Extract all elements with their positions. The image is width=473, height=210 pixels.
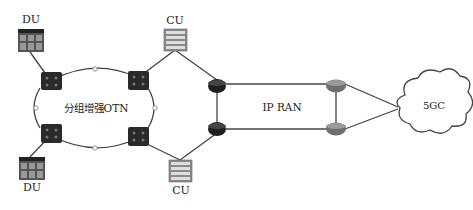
core-label: 5GC <box>423 100 445 111</box>
cu-server-bottom[interactable] <box>169 160 192 182</box>
router-agg-bottom[interactable] <box>326 123 346 136</box>
cu-bottom-label: CU <box>172 184 190 197</box>
du-top-label: DU <box>22 13 40 26</box>
du-server-bottom[interactable] <box>19 157 45 180</box>
ipran-label: IP RAN <box>262 101 301 113</box>
du-server-top[interactable] <box>18 29 44 52</box>
otn-node-top-left[interactable] <box>41 72 62 90</box>
router-agg-top[interactable] <box>326 80 346 93</box>
otn-node-bottom-left[interactable] <box>41 124 62 143</box>
router-access-bottom[interactable] <box>208 122 226 136</box>
router-access-top[interactable] <box>208 79 226 93</box>
cu-server-top[interactable] <box>164 29 187 51</box>
otn-node-top-right[interactable] <box>128 71 149 90</box>
cu-top-label: CU <box>166 14 184 27</box>
otn-node-bottom-right[interactable] <box>128 127 149 146</box>
network-diagram: DU DU CU CU 分组增强OTN IP RAN 5GC <box>0 0 473 210</box>
otn-ring-label: 分组增强OTN <box>64 102 129 114</box>
du-bottom-label: DU <box>23 181 41 194</box>
